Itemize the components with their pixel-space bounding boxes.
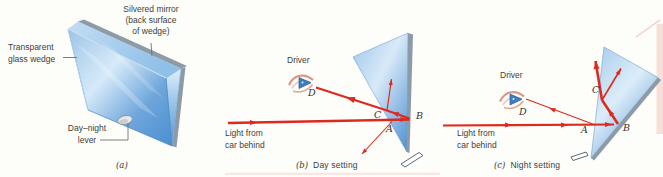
driver-label-night: Driver bbox=[500, 70, 523, 81]
mirror-pivot-icon bbox=[571, 152, 588, 161]
silvered-mirror-label-line1: Silvered mirror bbox=[105, 4, 197, 15]
point-c-day: C bbox=[374, 109, 381, 120]
silvered-mirror-label: Silvered mirror (back surface of wedge) bbox=[105, 4, 197, 37]
transparent-wedge-label: Transparent glass wedge bbox=[8, 41, 55, 65]
caption-letter-a: (a) bbox=[116, 160, 128, 170]
point-a-night: A bbox=[581, 124, 588, 135]
point-b-night: B bbox=[623, 122, 630, 133]
driver-label-day: Driver bbox=[287, 55, 310, 66]
caption-letter-c: (c) bbox=[494, 160, 505, 170]
light-source-label-night-line2: car behind bbox=[457, 139, 497, 151]
wedge-cross-section-night bbox=[571, 47, 661, 161]
point-a-day: A bbox=[386, 123, 393, 134]
caption-text-b: Day setting bbox=[313, 160, 358, 170]
point-d-day: D bbox=[308, 87, 316, 98]
day-night-mirror-figure: Silvered mirror (back surface of wedge) … bbox=[0, 0, 663, 177]
day-night-lever-label: Day–night lever bbox=[57, 122, 117, 146]
light-source-label-day: Light from car behind bbox=[225, 127, 265, 151]
point-c-night: C bbox=[592, 84, 599, 95]
ray-incoming-day bbox=[228, 117, 410, 125]
light-source-label-day-line2: car behind bbox=[225, 139, 265, 151]
caption-text-c: Night setting bbox=[510, 160, 560, 170]
caption-panel-a: (a) bbox=[116, 160, 128, 170]
caption-panel-b: (b) Day setting bbox=[296, 160, 358, 170]
transparent-wedge-label-line1: Transparent bbox=[8, 41, 55, 53]
figure-artwork bbox=[0, 0, 663, 177]
point-d-night: D bbox=[519, 106, 527, 117]
glass-wedge-night bbox=[591, 47, 658, 158]
light-source-label-night-line1: Light from bbox=[457, 127, 497, 139]
silvered-mirror-label-line3: of wedge) bbox=[105, 26, 197, 37]
transparent-wedge-label-line2: glass wedge bbox=[8, 53, 55, 65]
mirror-pivot-icon bbox=[401, 153, 423, 168]
caption-panel-c: (c) Night setting bbox=[494, 160, 560, 170]
light-source-label-night: Light from car behind bbox=[457, 127, 497, 151]
point-b-day: B bbox=[416, 110, 423, 121]
day-night-lever-label-line2: lever bbox=[57, 134, 117, 146]
light-source-label-day-line1: Light from bbox=[225, 127, 265, 139]
silvered-mirror-label-line2: (back surface bbox=[105, 15, 197, 26]
ray-weak-reflection-to-driver-night bbox=[526, 99, 594, 125]
caption-letter-b: (b) bbox=[296, 160, 308, 170]
day-night-lever-label-line1: Day–night bbox=[57, 122, 117, 134]
